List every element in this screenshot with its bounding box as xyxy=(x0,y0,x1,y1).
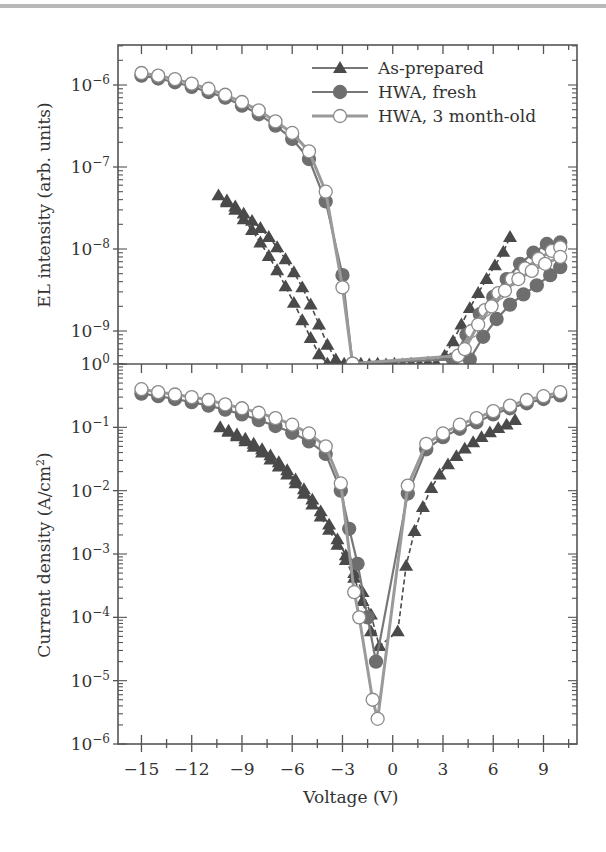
y-tick-label-top: 10−8 xyxy=(71,237,110,259)
data-marker xyxy=(287,296,301,308)
data-marker xyxy=(348,586,361,599)
data-marker xyxy=(471,286,485,298)
data-marker xyxy=(371,712,384,725)
data-marker xyxy=(270,263,284,275)
y-tick-label-bottom: 100 xyxy=(81,352,110,374)
series-line xyxy=(142,389,561,719)
data-marker xyxy=(286,418,299,431)
y-axis-title-bottom: Current density (A/cm2) xyxy=(34,452,54,657)
data-marker xyxy=(168,388,181,401)
data-marker xyxy=(353,611,366,624)
x-tick-label: 0 xyxy=(387,759,398,779)
data-marker xyxy=(420,437,433,450)
data-marker xyxy=(235,402,248,415)
x-tick-label: −12 xyxy=(174,759,210,779)
bottom-panel-current-density xyxy=(135,383,567,726)
x-tick-label: −6 xyxy=(280,759,305,779)
data-marker xyxy=(302,427,315,440)
y-tick-label-bottom: 10−6 xyxy=(71,732,110,754)
data-marker xyxy=(369,655,382,668)
data-marker xyxy=(391,624,405,636)
y-tick-label-top: 10−9 xyxy=(71,319,110,341)
x-tick-label: 3 xyxy=(438,759,449,779)
data-marker xyxy=(202,394,215,407)
data-marker xyxy=(269,115,282,128)
data-marker xyxy=(135,67,148,80)
data-marker xyxy=(152,69,165,82)
data-marker xyxy=(235,96,248,109)
data-marker xyxy=(219,398,232,411)
data-marker xyxy=(503,298,516,311)
y-axis-title-top: EL intensity (arb. units) xyxy=(34,102,54,307)
data-marker xyxy=(312,318,326,330)
series-as-prepared-sweep-1- xyxy=(212,188,517,369)
data-marker xyxy=(351,557,364,570)
data-marker xyxy=(554,386,567,399)
data-marker xyxy=(286,126,299,139)
x-tick-label: −9 xyxy=(229,759,254,779)
data-marker xyxy=(270,240,284,252)
data-marker xyxy=(185,391,198,404)
legend: As-preparedHWA, freshHWA, 3 month-old xyxy=(312,58,536,126)
data-marker xyxy=(517,288,530,301)
data-marker xyxy=(490,313,503,326)
data-marker xyxy=(424,481,438,493)
data-marker xyxy=(408,524,422,536)
data-marker xyxy=(480,272,494,284)
data-marker xyxy=(366,693,379,706)
data-marker xyxy=(320,338,334,350)
y-tick-label-bottom: 10−1 xyxy=(71,415,110,437)
data-marker xyxy=(219,88,232,101)
y-tick-label-bottom: 10−4 xyxy=(71,605,111,627)
data-marker xyxy=(319,185,332,198)
data-marker xyxy=(485,300,498,313)
data-marker xyxy=(252,104,265,117)
data-marker xyxy=(304,298,318,310)
data-marker xyxy=(401,479,414,492)
data-marker xyxy=(334,477,347,490)
data-marker xyxy=(416,500,430,512)
data-marker xyxy=(436,427,449,440)
chart-svg: 10−610−710−810−910010−110−210−310−410−51… xyxy=(0,0,606,852)
y-tick-label-top: 10−7 xyxy=(71,155,110,177)
data-marker xyxy=(537,390,550,403)
data-marker xyxy=(458,343,471,356)
x-tick-label: 9 xyxy=(538,759,549,779)
data-marker xyxy=(525,264,538,277)
data-marker xyxy=(319,440,332,453)
legend-item-0: As-prepared xyxy=(312,58,484,78)
data-marker xyxy=(279,252,293,264)
data-marker xyxy=(202,82,215,95)
data-marker xyxy=(279,279,293,291)
series-hwa-3-month-old xyxy=(135,383,567,726)
data-marker xyxy=(336,281,349,294)
data-marker xyxy=(539,257,552,270)
data-marker xyxy=(287,265,301,277)
legend-label: HWA, fresh xyxy=(378,82,477,102)
legend-item-2: HWA, 3 month-old xyxy=(312,106,536,126)
data-marker xyxy=(252,406,265,419)
y-tick-label-top: 10−6 xyxy=(71,73,110,95)
data-marker xyxy=(512,273,525,286)
data-marker xyxy=(295,280,309,292)
data-marker xyxy=(168,73,181,86)
data-marker xyxy=(453,418,466,431)
data-marker xyxy=(446,334,460,346)
x-tick-label: −3 xyxy=(330,759,355,779)
data-marker xyxy=(520,394,533,407)
data-marker xyxy=(477,330,490,343)
legend-marker-icon xyxy=(334,86,347,99)
data-marker xyxy=(470,412,483,425)
data-marker xyxy=(472,318,485,331)
x-axis-title: Voltage (V) xyxy=(302,787,398,807)
data-marker xyxy=(295,313,309,325)
plot-frame xyxy=(113,45,577,752)
legend-item-1: HWA, fresh xyxy=(312,82,477,102)
data-marker xyxy=(302,145,315,158)
data-marker xyxy=(269,412,282,425)
data-marker xyxy=(487,405,500,418)
legend-marker-icon xyxy=(334,110,347,123)
y-tick-label-bottom: 10−3 xyxy=(71,542,110,564)
data-marker xyxy=(530,279,543,292)
y-tick-label-bottom: 10−2 xyxy=(71,479,110,501)
